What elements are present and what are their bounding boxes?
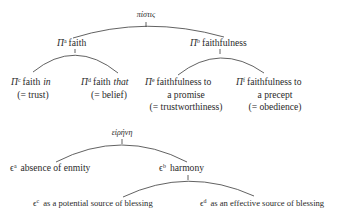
node-pistis-f-line2: a precept <box>258 89 293 100</box>
node-pistis-b: Πbfaithfulness <box>189 37 247 48</box>
node-pistis-f: Πffaithfulness to <box>235 76 302 87</box>
node-pistis-e: Πefaithfulness to <box>144 76 211 87</box>
gloss-pistis-e: (= trustworthiness) <box>150 101 223 113</box>
node-pistis-a: Πafaith <box>56 37 86 48</box>
tree-eirene: εἰρήνη ϵaabsence of enmity ϵbharmony ϵca… <box>10 128 325 208</box>
gloss-pistis-d: (= belief) <box>91 89 127 101</box>
branch-arc-b <box>178 58 264 75</box>
root-eirene: εἰρήνη <box>112 128 133 137</box>
branch-arc <box>56 145 187 162</box>
semantic-trees: πίστις Πafaith Πbfaithfulness Πcfaithin … <box>0 0 355 218</box>
tree-pistis: πίστις Πafaith Πbfaithfulness Πcfaithin … <box>10 10 302 113</box>
gloss-pistis-f: (= obedience) <box>248 101 301 113</box>
node-eirene-c: ϵcas a potential source of blessing <box>33 198 153 208</box>
node-pistis-e-line2: a promise <box>167 89 205 100</box>
node-eirene-b: ϵbharmony <box>159 162 204 173</box>
branch-arc-b <box>123 181 254 197</box>
node-pistis-c: Πcfaithin <box>10 76 51 87</box>
node-pistis-d: Πdfaiththat <box>80 76 129 87</box>
node-eirene-a: ϵaabsence of enmity <box>10 162 91 173</box>
gloss-pistis-c: (= trust) <box>17 89 48 101</box>
root-pistis: πίστις <box>137 10 156 19</box>
node-eirene-d: ϵdas an effective source of blessing <box>200 198 325 208</box>
branch-arc-a <box>33 55 118 73</box>
